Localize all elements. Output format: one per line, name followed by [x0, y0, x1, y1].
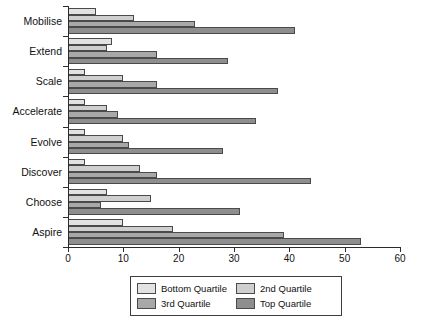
- legend-row: Bottom Quartile 2nd Quartile: [137, 281, 335, 296]
- category-label-aspire: Aspire: [0, 226, 62, 238]
- y-axis-line: [68, 6, 69, 248]
- legend-swatch-icon: [137, 298, 156, 309]
- bar-scale-top-quartile: [68, 88, 278, 94]
- bar-accelerate-top-quartile: [68, 118, 256, 124]
- category-label-mobilise: Mobilise: [0, 15, 62, 27]
- y-axis-tick: [63, 96, 68, 97]
- legend-entry-2nd-quartile: 2nd Quartile: [236, 283, 335, 294]
- legend-label: 2nd Quartile: [260, 283, 312, 294]
- x-axis-tick-label: 10: [108, 253, 138, 265]
- x-axis-tick-label: 0: [53, 253, 83, 265]
- legend-swatch-icon: [236, 283, 255, 294]
- x-axis-tick-label: 50: [330, 253, 360, 265]
- chart-legend: Bottom Quartile 2nd Quartile 3rd Quartil…: [130, 276, 342, 316]
- legend-label: 3rd Quartile: [161, 298, 211, 309]
- x-axis-tick: [289, 248, 290, 252]
- bar-aspire-top-quartile: [68, 238, 361, 244]
- category-label-extend: Extend: [0, 45, 62, 57]
- legend-row: 3rd Quartile Top Quartile: [137, 296, 335, 311]
- y-axis-tick: [63, 36, 68, 37]
- legend-entry-bottom-quartile: Bottom Quartile: [137, 283, 236, 294]
- x-axis-tick: [179, 248, 180, 252]
- legend-swatch-icon: [236, 298, 255, 309]
- plot-area: [68, 6, 400, 247]
- bar-discover-top-quartile: [68, 178, 311, 184]
- category-label-choose: Choose: [0, 196, 62, 208]
- category-label-discover: Discover: [0, 166, 62, 178]
- y-axis-tick: [63, 66, 68, 67]
- bar-evolve-top-quartile: [68, 148, 223, 154]
- category-label-evolve: Evolve: [0, 136, 62, 148]
- x-axis-tick: [68, 248, 69, 252]
- x-axis-tick: [400, 248, 401, 252]
- x-axis-tick: [123, 248, 124, 252]
- y-axis-tick: [63, 247, 68, 248]
- legend-label: Bottom Quartile: [161, 283, 227, 294]
- x-axis-tick-label: 60: [385, 253, 415, 265]
- bar-extend-top-quartile: [68, 58, 228, 64]
- legend-entry-3rd-quartile: 3rd Quartile: [137, 298, 236, 309]
- y-axis-tick: [63, 6, 68, 7]
- y-axis-tick: [63, 187, 68, 188]
- bar-chart: 0102030405060 MobiliseExtendScaleAcceler…: [0, 0, 430, 325]
- y-axis-tick: [63, 217, 68, 218]
- x-axis-tick-label: 30: [219, 253, 249, 265]
- y-axis-tick: [63, 157, 68, 158]
- bar-mobilise-top-quartile: [68, 27, 295, 33]
- x-axis-tick-label: 20: [164, 253, 194, 265]
- legend-swatch-icon: [137, 283, 156, 294]
- legend-entry-top-quartile: Top Quartile: [236, 298, 335, 309]
- x-axis-tick-label: 40: [274, 253, 304, 265]
- x-axis-tick: [234, 248, 235, 252]
- bar-choose-top-quartile: [68, 208, 240, 214]
- y-axis-tick: [63, 127, 68, 128]
- category-label-scale: Scale: [0, 75, 62, 87]
- x-axis-tick: [345, 248, 346, 252]
- legend-label: Top Quartile: [260, 298, 311, 309]
- category-label-accelerate: Accelerate: [0, 105, 62, 117]
